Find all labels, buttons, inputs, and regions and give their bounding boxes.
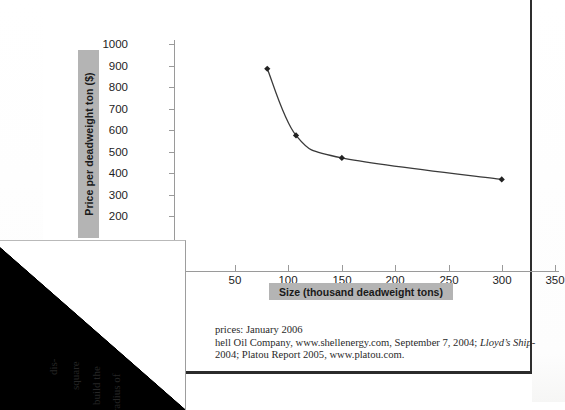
series-line bbox=[267, 69, 501, 180]
caption-line-1: prices: January 2006 bbox=[215, 324, 560, 337]
folded-corner-page: dis- square build the e radius of bbox=[0, 240, 186, 410]
corner-text-fragment: e radius of bbox=[110, 374, 122, 410]
series-marker bbox=[264, 66, 270, 72]
corner-text-fragment: square bbox=[69, 361, 81, 390]
series-marker bbox=[339, 155, 345, 161]
below-page-strip bbox=[150, 374, 532, 402]
x-tick-mark bbox=[555, 265, 556, 271]
series-marker bbox=[499, 176, 505, 182]
corner-text-fragment: dis- bbox=[47, 359, 59, 376]
x-tick-label: 350 bbox=[532, 274, 565, 286]
caption-line-3: 2004; Platou Report 2005, www.platou.com… bbox=[215, 349, 560, 362]
caption-line-2-italic: Lloyd’s Ship- bbox=[480, 337, 535, 348]
caption-line-2: hell Oil Company, www.shellenergy.com, S… bbox=[215, 337, 560, 350]
figure-caption: prices: January 2006 hell Oil Company, w… bbox=[215, 324, 560, 362]
corner-text-fragment: build the bbox=[90, 366, 102, 405]
caption-line-2-text: hell Oil Company, www.shellenergy.com, S… bbox=[215, 337, 480, 348]
